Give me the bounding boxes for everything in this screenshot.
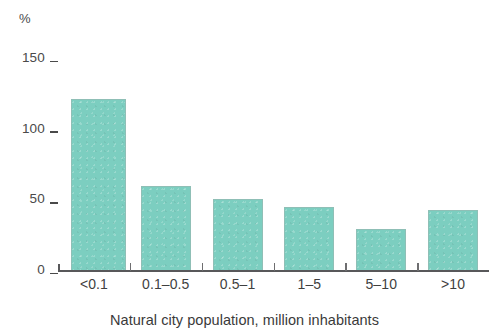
bar: [71, 99, 126, 271]
bar: [356, 229, 406, 271]
y-axis-tick: 100: [22, 121, 58, 137]
bar: [284, 207, 334, 271]
y-axis-tick-mark: [50, 273, 58, 275]
x-axis-tick-mark: [345, 263, 347, 271]
y-axis-tick-mark: [50, 131, 58, 133]
y-axis-tick-label: 0: [37, 262, 45, 278]
x-axis-tick-mark: [202, 263, 204, 271]
y-axis-tick: 0: [37, 262, 58, 278]
bar: [141, 186, 191, 271]
x-axis-tick-mark: [130, 263, 132, 271]
y-axis: 150100500: [0, 0, 58, 336]
bar: [213, 199, 263, 271]
x-axis-category-label: 0.1–0.5: [130, 276, 202, 292]
y-axis-tick-mark: [50, 61, 58, 63]
y-axis-tick-label: 150: [22, 50, 45, 66]
y-axis-tick-mark: [50, 202, 58, 204]
y-axis-tick-label: 100: [22, 121, 45, 137]
x-axis-tick-mark: [274, 263, 276, 271]
x-axis-category-label: 0.5–1: [202, 276, 274, 292]
x-axis-category-label: >10: [417, 276, 489, 292]
x-axis-category-label: 5–10: [345, 276, 417, 292]
x-axis-category-label: <0.1: [58, 276, 130, 292]
x-axis-category-label: 1–5: [274, 276, 346, 292]
y-axis-tick: 50: [30, 191, 58, 207]
x-axis-tick-mark: [417, 263, 419, 271]
x-axis-title: Natural city population, million inhabit…: [0, 312, 489, 328]
bar: [428, 210, 478, 271]
y-axis-tick-label: 50: [30, 191, 45, 207]
bar-chart: % 150100500 <0.10.1–0.50.5–11–55–10>10 N…: [0, 0, 489, 336]
y-axis-tick: 150: [22, 50, 58, 66]
plot-area: [58, 40, 489, 271]
